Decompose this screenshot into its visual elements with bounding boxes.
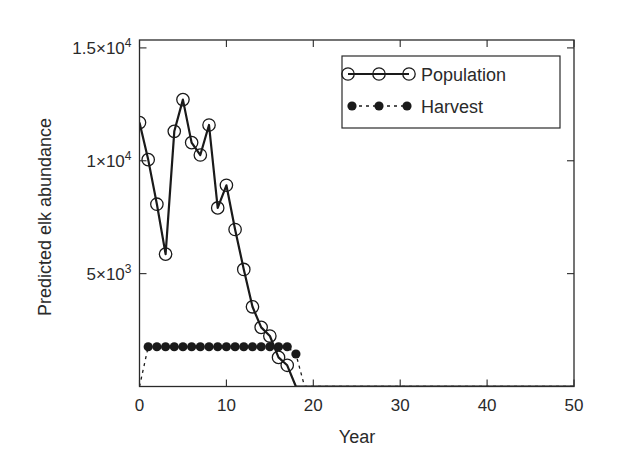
series-line-population <box>140 100 575 387</box>
chart-canvas: 010203040505×1031×1041.5×104 PopulationH… <box>0 0 621 462</box>
data-point-filled-circle <box>257 342 266 351</box>
data-point-filled-circle <box>204 342 213 351</box>
x-tick-label: 50 <box>565 396 584 415</box>
data-point-filled-circle <box>291 349 300 358</box>
y-tick-label: 1×104 <box>87 149 132 171</box>
y-tick-exponent: 3 <box>125 262 132 276</box>
legend-harvest-marker <box>347 101 356 110</box>
data-point-filled-circle <box>161 342 170 351</box>
y-tick-mantissa: 5×10 <box>87 265 125 284</box>
data-point-filled-circle <box>196 342 205 351</box>
x-tick-label: 20 <box>304 396 323 415</box>
legend-harvest-marker <box>402 101 411 110</box>
legend-harvest-marker <box>374 101 383 110</box>
data-point-filled-circle <box>222 342 231 351</box>
y-tick-mantissa: 1.5×10 <box>72 39 124 58</box>
data-point-filled-circle <box>178 342 187 351</box>
data-point-filled-circle <box>213 342 222 351</box>
series-line-harvest <box>140 347 575 387</box>
y-axis-label: Predicted elk abundance <box>35 118 55 316</box>
data-point-filled-circle <box>265 342 274 351</box>
data-point-filled-circle <box>248 342 257 351</box>
y-tick-mantissa: 1×10 <box>87 152 125 171</box>
y-tick-label: 5×103 <box>87 262 132 284</box>
data-point-filled-circle <box>283 342 292 351</box>
x-tick-label: 40 <box>478 396 497 415</box>
legend-label-harvest: Harvest <box>421 97 483 117</box>
y-tick-label: 1.5×104 <box>72 36 131 58</box>
plot-area <box>133 93 574 386</box>
data-point-filled-circle <box>152 342 161 351</box>
data-point-filled-circle <box>144 342 153 351</box>
data-point-filled-circle <box>230 342 239 351</box>
y-tick-exponent: 4 <box>125 36 132 50</box>
x-axis-label: Year <box>339 427 375 447</box>
x-tick-label: 0 <box>135 396 144 415</box>
series-harvest <box>140 342 575 386</box>
data-point-filled-circle <box>187 342 196 351</box>
data-point-filled-circle <box>170 342 179 351</box>
data-point-filled-circle <box>239 342 248 351</box>
x-tick-label: 10 <box>217 396 236 415</box>
y-tick-exponent: 4 <box>125 149 132 163</box>
legend: PopulationHarvest <box>342 56 560 128</box>
legend-label-population: Population <box>421 65 506 85</box>
data-point-filled-circle <box>274 342 283 351</box>
chart: 010203040505×1031×1041.5×104 PopulationH… <box>0 0 621 462</box>
x-tick-label: 30 <box>391 396 410 415</box>
